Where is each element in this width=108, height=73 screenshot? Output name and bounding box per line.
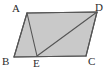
geometry-figure: A B C D E — [0, 0, 108, 73]
vertex-label-b: B — [2, 56, 9, 67]
parallelogram-abcd — [14, 12, 97, 57]
vertex-label-a: A — [12, 3, 20, 14]
vertex-label-d: D — [95, 2, 103, 13]
vertex-label-c: C — [88, 56, 95, 67]
vertex-label-e: E — [33, 58, 40, 69]
